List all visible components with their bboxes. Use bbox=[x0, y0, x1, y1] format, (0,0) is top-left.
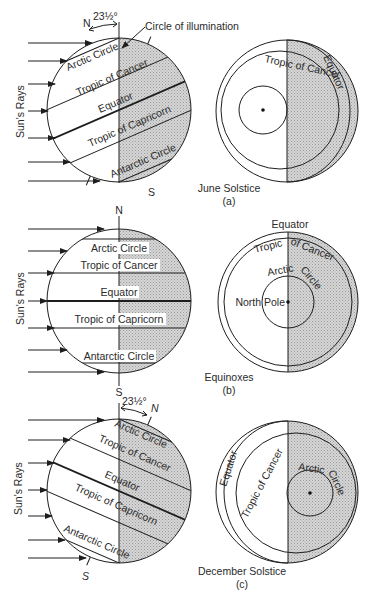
panel-letter: (b) bbox=[223, 384, 236, 396]
side-view-globe: 23½° N S Arctic Circle Tropic of Cancer … bbox=[2, 391, 238, 592]
panel-title: Equinoxes bbox=[204, 371, 253, 383]
north-pole-dot bbox=[261, 108, 265, 112]
north-label: N bbox=[83, 17, 91, 29]
north-label: N bbox=[115, 204, 123, 216]
tilt-angle-label: 23½° bbox=[93, 10, 118, 22]
suns-rays-label: Sun's Rays bbox=[14, 85, 26, 138]
north-pole-label: North Pole bbox=[235, 296, 285, 308]
panel-equinoxes: N S Arctic Circle Tropic of Cancer Equat… bbox=[14, 204, 360, 398]
north-axis-tick bbox=[148, 37, 151, 44]
arctic-circle-label: Arctic Circle bbox=[64, 39, 120, 72]
side-view-globe: N 23½° S Circle of illumination Arctic C… bbox=[2, 9, 239, 210]
panel-december-solstice: 23½° N S Arctic Circle Tropic of Cancer … bbox=[2, 391, 360, 592]
tropic-of-cancer-label: Tropic of Cancer bbox=[80, 259, 158, 271]
tropic-of-capricorn-label: Tropic of Capricorn bbox=[75, 313, 164, 325]
antarctic-circle-label: Antarctic Circle bbox=[84, 350, 155, 362]
panel-june-solstice: N 23½° S Circle of illumination Arctic C… bbox=[2, 9, 359, 210]
south-label: S bbox=[148, 186, 155, 198]
tropic-of-cancer-label: Tropic of Cancer bbox=[238, 446, 285, 520]
suns-rays-label: Sun's Rays bbox=[14, 272, 26, 325]
panel-letter: (a) bbox=[223, 195, 236, 207]
north-pole-dot bbox=[308, 491, 312, 495]
equator-label: Equator bbox=[272, 218, 309, 230]
south-axis-tick bbox=[87, 557, 91, 565]
north-label: N bbox=[151, 402, 159, 414]
earth-seasons-diagram: N 23½° S Circle of illumination Arctic C… bbox=[0, 0, 371, 602]
panel-letter: (c) bbox=[236, 578, 248, 590]
suns-rays-label: Sun's Rays bbox=[12, 462, 24, 515]
side-view-globe: N S Arctic Circle Tropic of Cancer Equat… bbox=[40, 204, 200, 398]
polar-view-globe: Equator Tropic Tropic of Cancer of Cance… bbox=[218, 218, 360, 375]
arctic-circle-label: Arctic Circle bbox=[91, 242, 147, 254]
panel-title: June Solstice bbox=[198, 182, 261, 194]
circle-of-illumination-label: Circle of illumination bbox=[145, 20, 239, 32]
equator-label: Equator bbox=[101, 286, 138, 298]
south-label: S bbox=[82, 570, 89, 582]
north-pole-dot bbox=[286, 300, 290, 304]
tilt-angle-label: 23½° bbox=[122, 395, 147, 407]
polar-view-globe: Equator Tropic of Cancer Arctic Circle bbox=[216, 418, 360, 568]
panel-title: December Solstice bbox=[198, 565, 286, 577]
polar-view-globe: Tropic of Cancer Equator bbox=[216, 38, 359, 186]
north-axis-tick bbox=[148, 417, 152, 425]
